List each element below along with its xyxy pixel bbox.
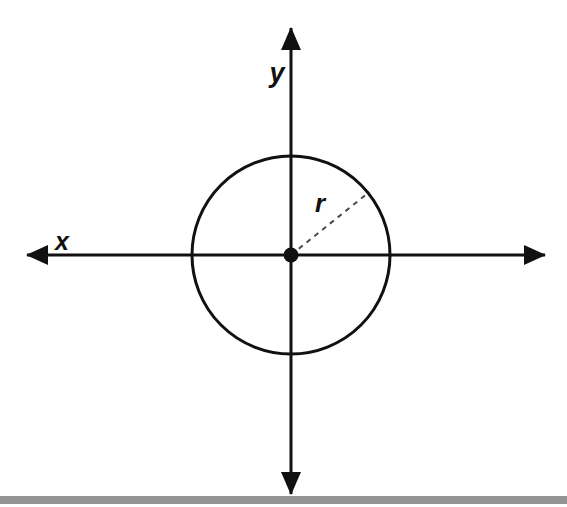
y-axis-label: y [267, 58, 286, 88]
x-axis-label: x [53, 227, 70, 255]
bottom-rule [0, 496, 567, 504]
circle-diagram-svg: y x r [0, 0, 567, 507]
origin-point [284, 248, 299, 263]
figure-container: y x r [0, 0, 567, 507]
